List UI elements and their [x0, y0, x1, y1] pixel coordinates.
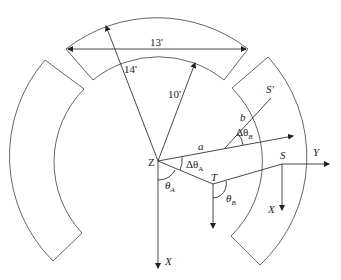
label-delta-theta-b: ΔθB	[236, 126, 253, 141]
left-ring-segment	[9, 60, 84, 261]
inner-radius-label: 10'	[168, 88, 181, 100]
label-t: T	[211, 171, 218, 183]
label-y: Y	[313, 146, 321, 158]
inner-radius-line	[158, 63, 195, 161]
label-a: a	[198, 140, 204, 152]
vector-a	[158, 136, 293, 161]
label-delta-theta-a: ΔθA	[186, 158, 203, 173]
label-s-prime: S'	[266, 83, 275, 95]
label-b: b	[240, 111, 246, 123]
label-x-s: X	[267, 203, 276, 215]
outer-radius-label: 14'	[124, 63, 137, 75]
diagram-canvas: 13' 14' 10' a S' b ΔθB Z T S ΔθA X θA θB…	[0, 0, 341, 280]
angle-arc-delta-theta-a	[180, 157, 182, 170]
label-s: S	[280, 149, 286, 161]
line-t-s	[213, 164, 282, 184]
label-z: Z	[148, 156, 155, 168]
chord-label: 13'	[150, 36, 163, 48]
label-theta-b: θB	[226, 192, 236, 207]
label-x-main: X	[164, 255, 173, 267]
label-theta-a: θA	[165, 179, 175, 194]
